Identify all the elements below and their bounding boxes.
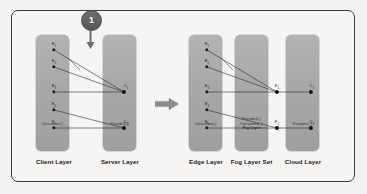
column-server-layer: Provides(.) bbox=[103, 35, 136, 151]
node-label-edge-4: E4 bbox=[205, 102, 210, 108]
column-fog-layer-set: Provides(.) Consumes(.') Fog Layer bbox=[235, 35, 268, 151]
node-label-client-4: E4 bbox=[52, 102, 57, 108]
caption-fog-layer-set: Fog Layer Set bbox=[228, 158, 275, 165]
caption-client-layer: Client Layer bbox=[36, 158, 69, 165]
node-label-client-2: E2 bbox=[52, 59, 57, 65]
node-label-fog-1: F1 bbox=[275, 84, 279, 90]
fog-layer-role: Provides(.) Consumes(.') Fog Layer bbox=[238, 117, 265, 131]
server-layer-role: Provides(.) bbox=[106, 122, 133, 127]
node-label-fog-2: F2 bbox=[275, 120, 279, 126]
node-label-edge-1: E1 bbox=[205, 42, 210, 48]
diagram-canvas: Consumes(.) Client Layer Provides(.) Ser… bbox=[0, 0, 367, 194]
caption-server-layer: Server Layer bbox=[100, 158, 140, 165]
node-label-edge-5: E5 bbox=[205, 120, 210, 126]
step-badge-1: 1 bbox=[81, 10, 102, 31]
node-label-cloud-1: C1 bbox=[310, 84, 315, 90]
node-label-server-2: C2 bbox=[124, 120, 129, 126]
node-label-client-1: E1 bbox=[52, 42, 57, 48]
column-cloud-layer: Provides(.') bbox=[286, 35, 319, 151]
transform-arrow-icon bbox=[155, 98, 179, 110]
node-label-server-1: C1 bbox=[124, 84, 129, 90]
node-label-client-5: E5 bbox=[52, 120, 57, 126]
step-badge-label: 1 bbox=[89, 16, 94, 25]
server-layer-role-line-1: Provides(.) bbox=[106, 122, 133, 127]
caption-cloud-layer: Cloud Layer bbox=[282, 158, 324, 165]
node-label-edge-3: E3 bbox=[205, 84, 210, 90]
node-label-edge-2: E2 bbox=[205, 59, 210, 65]
fog-layer-italic-label: Fog Layer bbox=[238, 126, 265, 131]
caption-edge-layer: Edge Layer bbox=[187, 158, 225, 165]
node-label-client-3: E3 bbox=[52, 84, 57, 90]
node-label-cloud-2: C2 bbox=[310, 120, 315, 126]
